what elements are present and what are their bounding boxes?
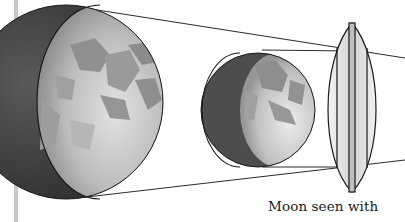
moon-small [201, 53, 316, 167]
moon-large [0, 5, 163, 199]
diagram-canvas [0, 0, 405, 222]
caption-text: Moon seen with [268, 198, 378, 214]
moon-lens-diagram: Moon seen with [0, 0, 405, 222]
